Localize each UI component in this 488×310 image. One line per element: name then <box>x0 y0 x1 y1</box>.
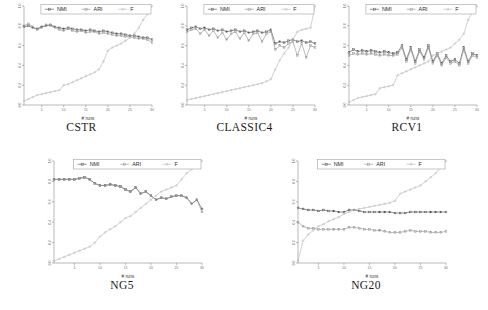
svg-text:5: 5 <box>366 108 368 112</box>
svg-text:0.0: 0.0 <box>292 261 296 266</box>
svg-text:# runs: # runs <box>81 116 94 121</box>
svg-text:ARI: ARI <box>376 161 385 167</box>
svg-text:1.0: 1.0 <box>292 159 296 164</box>
svg-text:25: 25 <box>419 266 423 270</box>
plot-ng20: 1.00.80.60.40.20.051015202530# runsNMIAR… <box>281 155 451 280</box>
svg-text:0.2: 0.2 <box>180 83 184 88</box>
svg-text:10: 10 <box>98 266 102 270</box>
svg-text:0.0: 0.0 <box>343 103 347 108</box>
svg-text:20: 20 <box>149 266 153 270</box>
caption-ng5: NG5 <box>110 280 134 292</box>
svg-text:# runs: # runs <box>122 274 135 279</box>
caption-ng20: NG20 <box>351 280 381 292</box>
svg-text:# runs: # runs <box>366 274 379 279</box>
svg-text:NMI: NMI <box>382 6 392 12</box>
caption-cstr: CSTR <box>66 122 96 134</box>
svg-text:10: 10 <box>224 108 228 112</box>
svg-text:30: 30 <box>200 266 204 270</box>
svg-text:0.6: 0.6 <box>17 43 21 48</box>
svg-text:5: 5 <box>73 266 75 270</box>
svg-text:20: 20 <box>393 266 397 270</box>
svg-text:0.2: 0.2 <box>17 83 21 88</box>
svg-text:15: 15 <box>409 108 413 112</box>
svg-text:0.2: 0.2 <box>48 240 52 245</box>
svg-text:25: 25 <box>128 108 132 112</box>
svg-text:1.0: 1.0 <box>180 4 184 9</box>
svg-text:0.4: 0.4 <box>48 220 52 225</box>
svg-text:1.0: 1.0 <box>48 159 52 164</box>
svg-text:5: 5 <box>203 108 205 112</box>
svg-text:30: 30 <box>150 108 154 112</box>
svg-text:0.4: 0.4 <box>180 63 184 68</box>
figure-row-bottom: 1.00.80.60.40.20.051015202530# runsNMIAR… <box>0 155 488 310</box>
svg-text:0.4: 0.4 <box>292 220 296 225</box>
svg-text:15: 15 <box>246 108 250 112</box>
subplot-rcv1: 1.00.80.60.40.20.051015202530# runsNMIAR… <box>326 0 488 155</box>
plot-ng5: 1.00.80.60.40.20.051015202530# runsNMIAR… <box>37 155 207 280</box>
svg-text:15: 15 <box>368 266 372 270</box>
svg-text:10: 10 <box>387 108 391 112</box>
svg-text:0.8: 0.8 <box>180 23 184 28</box>
svg-text:0.0: 0.0 <box>180 103 184 108</box>
svg-text:20: 20 <box>268 108 272 112</box>
figure-grid: 1.00.80.60.40.20.051015202530# runsNMIAR… <box>0 0 488 310</box>
plot-rcv1: 1.00.80.60.40.20.051015202530# runsNMIAR… <box>332 0 482 122</box>
svg-text:0.0: 0.0 <box>48 261 52 266</box>
svg-text:5: 5 <box>317 266 319 270</box>
svg-text:20: 20 <box>431 108 435 112</box>
svg-text:NMI: NMI <box>90 161 100 167</box>
svg-text:# runs: # runs <box>244 116 257 121</box>
svg-text:25: 25 <box>291 108 295 112</box>
caption-rcv1: RCV1 <box>392 122 423 134</box>
svg-text:0.6: 0.6 <box>180 43 184 48</box>
svg-text:0.4: 0.4 <box>343 63 347 68</box>
svg-text:30: 30 <box>313 108 317 112</box>
svg-text:5: 5 <box>40 108 42 112</box>
svg-text:25: 25 <box>175 266 179 270</box>
svg-text:0.8: 0.8 <box>48 179 52 184</box>
svg-text:0.2: 0.2 <box>292 240 296 245</box>
svg-text:NMI: NMI <box>334 161 344 167</box>
caption-classic4: CLASSIC4 <box>216 122 272 134</box>
svg-text:0.8: 0.8 <box>343 23 347 28</box>
svg-text:0.6: 0.6 <box>48 199 52 204</box>
svg-text:30: 30 <box>475 108 479 112</box>
svg-text:# runs: # runs <box>407 116 420 121</box>
svg-text:0.6: 0.6 <box>292 199 296 204</box>
svg-text:10: 10 <box>342 266 346 270</box>
svg-text:NMI: NMI <box>56 6 66 12</box>
svg-text:ARI: ARI <box>132 161 141 167</box>
svg-text:0.8: 0.8 <box>292 179 296 184</box>
subplot-ng20: 1.00.80.60.40.20.051015202530# runsNMIAR… <box>244 155 488 310</box>
svg-text:0.4: 0.4 <box>17 63 21 68</box>
subplot-cstr: 1.00.80.60.40.20.051015202530# runsNMIAR… <box>0 0 163 155</box>
svg-text:0.0: 0.0 <box>17 103 21 108</box>
svg-text:1.0: 1.0 <box>17 4 21 9</box>
svg-text:25: 25 <box>453 108 457 112</box>
svg-text:15: 15 <box>124 266 128 270</box>
svg-text:10: 10 <box>61 108 65 112</box>
svg-text:NMI: NMI <box>219 6 229 12</box>
plot-cstr: 1.00.80.60.40.20.051015202530# runsNMIAR… <box>7 0 157 122</box>
subplot-classic4: 1.00.80.60.40.20.051015202530# runsNMIAR… <box>163 0 326 155</box>
svg-text:0.6: 0.6 <box>343 43 347 48</box>
plot-classic4: 1.00.80.60.40.20.051015202530# runsNMIAR… <box>170 0 320 122</box>
svg-text:30: 30 <box>444 266 448 270</box>
subplot-ng5: 1.00.80.60.40.20.051015202530# runsNMIAR… <box>0 155 244 310</box>
figure-row-top: 1.00.80.60.40.20.051015202530# runsNMIAR… <box>0 0 488 155</box>
svg-text:ARI: ARI <box>419 6 428 12</box>
svg-text:ARI: ARI <box>93 6 102 12</box>
svg-text:ARI: ARI <box>256 6 265 12</box>
svg-text:0.2: 0.2 <box>343 83 347 88</box>
svg-text:20: 20 <box>105 108 109 112</box>
svg-text:0.8: 0.8 <box>17 23 21 28</box>
svg-text:15: 15 <box>83 108 87 112</box>
svg-text:1.0: 1.0 <box>343 4 347 9</box>
